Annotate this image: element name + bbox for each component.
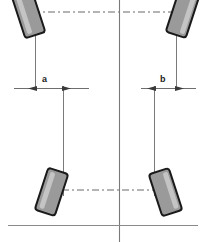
wheel-front-right (166, 0, 200, 38)
dimension-b: b (141, 74, 196, 91)
dimension-a-arrow-right (62, 86, 71, 91)
dimension-b-arrow-left (147, 86, 156, 91)
wheel-rear-left (35, 168, 69, 216)
dimension-b-arrow-right (175, 86, 184, 91)
diagram-canvas: a b (0, 0, 205, 242)
wheel-front-left (12, 0, 46, 38)
dimension-a: a (14, 74, 89, 91)
dimension-a-label: a (42, 74, 48, 84)
wheel-alignment-diagram: a b (0, 0, 205, 242)
dimension-a-arrow-left (28, 86, 37, 91)
dimension-b-label: b (160, 74, 166, 84)
wheel-rear-right (149, 168, 183, 216)
